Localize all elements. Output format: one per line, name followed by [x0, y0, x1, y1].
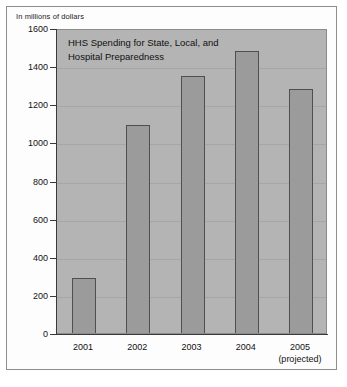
- y-axis-tick-label: 400: [8, 253, 48, 263]
- y-axis-tick: [50, 67, 56, 68]
- y-axis-tick-label: 0: [8, 329, 48, 339]
- y-axis-tick-label: 800: [8, 177, 48, 187]
- plot-area: HHS Spending for State, Local, andHospit…: [56, 29, 327, 334]
- y-axis-tick: [50, 296, 56, 297]
- y-axis-tick-label: 1000: [8, 138, 48, 148]
- y-axis-tick-label: 1400: [8, 62, 48, 72]
- y-axis-tick-label: 1600: [8, 24, 48, 34]
- x-axis-line: [56, 334, 328, 335]
- y-axis-tick: [50, 29, 56, 30]
- bar: [235, 51, 259, 334]
- y-axis-tick: [50, 182, 56, 183]
- chart-title: HHS Spending for State, Local, andHospit…: [68, 36, 219, 63]
- gridline: [57, 68, 326, 69]
- y-axis-tick: [50, 105, 56, 106]
- y-axis-tick: [50, 143, 56, 144]
- bar: [126, 125, 150, 334]
- bar: [72, 278, 96, 334]
- chart-title-line: Hospital Preparedness: [68, 50, 219, 64]
- y-axis-tick: [50, 258, 56, 259]
- y-axis-tick-label: 200: [8, 291, 48, 301]
- chart-figure: In millions of dollars HHS Spending for …: [6, 6, 337, 370]
- y-axis-tick-label: 600: [8, 215, 48, 225]
- y-axis-tick-label: 1200: [8, 100, 48, 110]
- y-axis-line: [56, 29, 57, 335]
- y-axis-unit-label: In millions of dollars: [16, 12, 84, 21]
- x-axis-tick-sublabel: (projected): [265, 353, 335, 365]
- chart-title-line: HHS Spending for State, Local, and: [68, 36, 219, 50]
- bar: [181, 76, 205, 334]
- bar: [289, 89, 313, 334]
- y-axis-tick: [50, 220, 56, 221]
- x-axis-tick-label: 2005(projected): [265, 341, 335, 365]
- y-axis-tick: [50, 334, 56, 335]
